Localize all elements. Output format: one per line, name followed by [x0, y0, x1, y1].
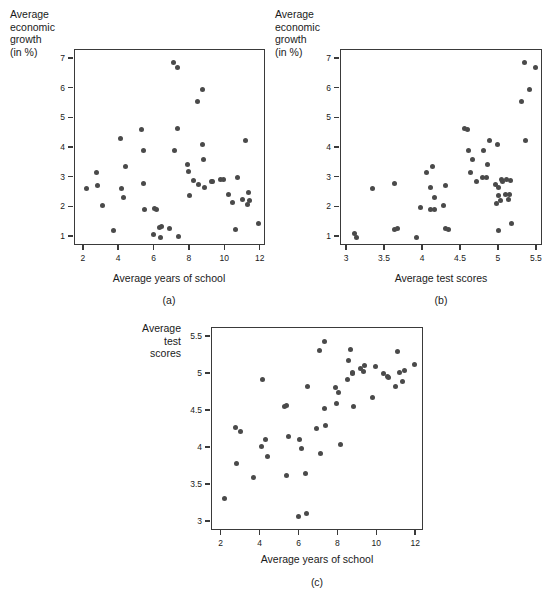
- data-point: [351, 404, 356, 409]
- data-point: [506, 197, 511, 202]
- data-point: [230, 200, 235, 205]
- data-point: [235, 175, 240, 180]
- y-axis-tick-label: 4: [42, 142, 65, 152]
- y-axis-tick: [68, 146, 73, 148]
- panel-a-xaxis-title: Average years of school: [113, 272, 225, 284]
- y-axis-tick-label: 3.5: [179, 479, 202, 489]
- panel-c: Average test scores Average years of sch…: [0, 310, 554, 595]
- y-axis-tick-label: 7: [42, 53, 65, 63]
- data-point: [470, 157, 475, 162]
- x-axis-tick: [224, 245, 226, 250]
- data-point: [527, 87, 532, 92]
- data-point: [345, 377, 350, 382]
- panel-a-ylabel-line-1: Average: [10, 8, 55, 21]
- data-point: [175, 126, 180, 131]
- data-point: [186, 169, 191, 174]
- y-axis-tick: [334, 87, 339, 89]
- data-point: [336, 390, 341, 395]
- data-point: [418, 205, 423, 210]
- panel-a-caption: (a): [163, 294, 176, 306]
- data-point: [118, 136, 123, 141]
- data-point: [123, 164, 128, 169]
- data-point: [210, 179, 215, 184]
- data-point: [240, 197, 245, 202]
- data-point: [370, 395, 375, 400]
- data-point: [95, 183, 100, 188]
- y-axis-tick-label: 4: [179, 442, 202, 452]
- panel-b-xaxis-title: Average test scores: [395, 272, 488, 284]
- data-point: [100, 203, 105, 208]
- x-axis-tick-label: 4.5: [454, 253, 466, 263]
- x-axis-tick: [220, 530, 222, 535]
- data-point: [246, 190, 251, 195]
- data-point: [432, 195, 437, 200]
- data-point: [297, 437, 302, 442]
- data-point: [296, 514, 301, 519]
- data-point: [334, 401, 339, 406]
- data-point: [443, 183, 448, 188]
- data-point: [200, 87, 205, 92]
- x-axis-tick: [383, 245, 385, 250]
- y-axis-tick-label: 2: [308, 201, 331, 211]
- data-point: [496, 228, 501, 233]
- data-point: [522, 60, 527, 65]
- data-point: [284, 473, 289, 478]
- data-point: [346, 358, 351, 363]
- panel-c-plot-area: [211, 327, 423, 530]
- data-point: [142, 207, 147, 212]
- data-point: [94, 170, 99, 175]
- data-point: [159, 224, 164, 229]
- panel-a-plot-area: [74, 49, 265, 245]
- data-point: [158, 235, 163, 240]
- data-point: [430, 164, 435, 169]
- data-point: [481, 148, 486, 153]
- x-axis-tick: [259, 245, 261, 250]
- y-axis-tick: [68, 87, 73, 89]
- data-point: [226, 192, 231, 197]
- data-point: [299, 446, 304, 451]
- x-axis-tick: [188, 245, 190, 250]
- data-point: [370, 186, 375, 191]
- y-axis-tick-label: 1: [308, 231, 331, 241]
- data-point: [386, 375, 391, 380]
- data-point: [233, 425, 238, 430]
- data-point: [348, 347, 353, 352]
- y-axis-tick-label: 6: [42, 83, 65, 93]
- data-point: [373, 364, 378, 369]
- x-axis-tick-label: 2: [218, 538, 223, 548]
- x-axis-tick-label: 8: [187, 253, 192, 263]
- data-point: [354, 235, 359, 240]
- data-point: [362, 363, 367, 368]
- x-axis-tick-label: 5: [496, 253, 501, 263]
- data-point: [119, 186, 124, 191]
- x-axis-tick-label: 4: [116, 253, 121, 263]
- data-point: [141, 148, 146, 153]
- data-point: [400, 379, 405, 384]
- y-axis-tick-label: 6: [308, 83, 331, 93]
- y-axis-tick-label: 5: [42, 112, 65, 122]
- panel-b-caption: (b): [435, 294, 448, 306]
- panel-a: Average economic growth (in %) Average y…: [0, 0, 280, 310]
- y-axis-tick-label: 4: [308, 142, 331, 152]
- x-axis-tick-label: 3.5: [378, 253, 390, 263]
- panel-a-ylabel-line-2: economic: [10, 21, 55, 34]
- data-point: [284, 403, 289, 408]
- x-axis-tick-label: 6: [296, 538, 301, 548]
- data-point: [303, 471, 308, 476]
- data-point: [485, 162, 490, 167]
- x-axis-tick-label: 12: [255, 253, 264, 263]
- y-axis-tick: [68, 206, 73, 208]
- panel-c-ylabel-line-3: scores: [106, 347, 181, 360]
- x-axis-tick: [414, 530, 416, 535]
- data-point: [263, 437, 268, 442]
- panel-c-caption: (c): [311, 576, 323, 588]
- data-point: [402, 368, 407, 373]
- x-axis-tick-label: 3: [344, 253, 349, 263]
- data-point: [238, 429, 243, 434]
- y-axis-tick-label: 3: [179, 516, 202, 526]
- data-point: [251, 475, 256, 480]
- data-point: [172, 148, 177, 153]
- data-point: [484, 175, 489, 180]
- x-axis-tick-label: 10: [220, 253, 229, 263]
- panel-a-ylabel: Average economic growth (in %): [10, 8, 55, 58]
